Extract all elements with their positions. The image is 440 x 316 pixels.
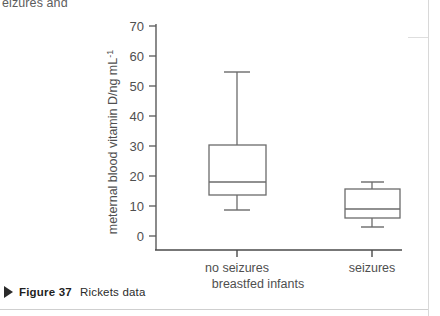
y-tick-label-0: 0 <box>137 229 144 244</box>
triangle-right-icon <box>4 286 13 298</box>
y-axis-title-exponent: -1 <box>105 50 115 58</box>
boxplot-chart: 70 60 50 40 30 20 10 0 meternal blood vi… <box>0 0 440 300</box>
y-axis-title: meternal blood vitamin D/ng mL-1 <box>105 50 120 235</box>
y-tick-label-40: 40 <box>130 109 144 124</box>
y-tick-label-70: 70 <box>130 19 144 34</box>
box-seizures <box>345 189 400 218</box>
figure-caption-label: Figure 37 <box>19 286 72 298</box>
boxplot-svg: 70 60 50 40 30 20 10 0 meternal blood vi… <box>0 0 440 300</box>
y-tick-label-20: 20 <box>130 169 144 184</box>
figure-page: eizures and 70 60 50 40 30 <box>0 0 440 316</box>
figure-caption-text: Rickets data <box>80 286 146 298</box>
y-tick-label-10: 10 <box>130 199 144 214</box>
y-axis-title-text: meternal blood vitamin D/ng mL <box>106 58 120 235</box>
y-tick-label-60: 60 <box>130 49 144 64</box>
x-category-label-seizures: seizures <box>349 261 396 275</box>
x-axis-ticks <box>237 250 372 257</box>
y-axis-ticks <box>149 26 156 236</box>
x-axis-title: breastfed infants <box>212 277 304 291</box>
boxplot-group-no-seizures <box>209 72 266 210</box>
page-border-bottom <box>0 309 428 310</box>
y-tick-label-50: 50 <box>130 79 144 94</box>
x-category-label-no-seizures: no seizures <box>205 261 269 275</box>
svg-text:meternal blood vitamin D/ng mL: meternal blood vitamin D/ng mL-1 <box>105 50 120 235</box>
figure-caption: Figure 37 Rickets data <box>4 286 146 298</box>
y-tick-label-30: 30 <box>130 139 144 154</box>
boxplot-group-seizures <box>345 182 400 227</box>
box-no-seizures <box>209 145 266 195</box>
